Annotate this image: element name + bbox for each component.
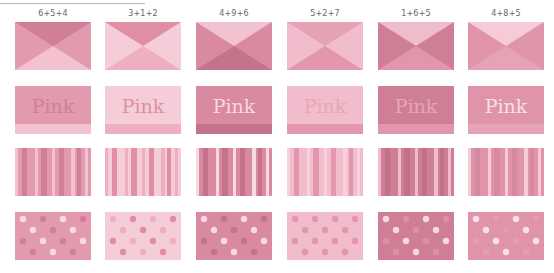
stripe-graphic bbox=[105, 148, 181, 196]
polka-dot-graphic bbox=[15, 212, 91, 260]
pink-swatch-word: Pink bbox=[378, 94, 454, 118]
top-divider-line bbox=[0, 3, 145, 4]
pink-text-swatch[interactable]: Pink bbox=[15, 86, 91, 134]
combination-label: 4+9+6 bbox=[196, 9, 272, 18]
stripe-swatch[interactable] bbox=[196, 148, 272, 196]
pink-swatch-word: Pink bbox=[15, 94, 91, 118]
combination-label: 4+8+5 bbox=[468, 9, 544, 18]
hourglass-swatch[interactable] bbox=[105, 22, 181, 70]
stripe-swatch[interactable] bbox=[468, 148, 544, 196]
pink-text-swatch[interactable]: Pink bbox=[196, 86, 272, 134]
combination-label: 5+2+7 bbox=[287, 9, 363, 18]
pink-text-swatch[interactable]: Pink bbox=[378, 86, 454, 134]
stripe-graphic bbox=[15, 148, 91, 196]
pink-swatch-word: Pink bbox=[105, 94, 181, 118]
stripe-graphic bbox=[468, 148, 544, 196]
polka-dot-swatch[interactable] bbox=[468, 212, 544, 260]
pink-swatch-band bbox=[15, 124, 91, 134]
stripe-swatch[interactable] bbox=[15, 148, 91, 196]
pink-swatch-word: Pink bbox=[287, 94, 363, 118]
combination-label: 3+1+2 bbox=[105, 9, 181, 18]
pink-text-swatch[interactable]: Pink bbox=[468, 86, 544, 134]
polka-dot-swatch[interactable] bbox=[378, 212, 454, 260]
hourglass-graphic bbox=[468, 22, 544, 70]
pink-swatch-band bbox=[468, 124, 544, 134]
hourglass-swatch[interactable] bbox=[287, 22, 363, 70]
pink-swatch-band bbox=[105, 124, 181, 134]
pink-swatch-word: Pink bbox=[468, 94, 544, 118]
polka-dot-swatch[interactable] bbox=[196, 212, 272, 260]
hourglass-swatch[interactable] bbox=[378, 22, 454, 70]
stripe-graphic bbox=[196, 148, 272, 196]
stripe-graphic bbox=[378, 148, 454, 196]
hourglass-graphic bbox=[287, 22, 363, 70]
stripe-swatch[interactable] bbox=[287, 148, 363, 196]
stripe-swatch[interactable] bbox=[378, 148, 454, 196]
polka-dot-graphic bbox=[468, 212, 544, 260]
hourglass-swatch[interactable] bbox=[196, 22, 272, 70]
pink-swatch-word: Pink bbox=[196, 94, 272, 118]
combination-label: 1+6+5 bbox=[378, 9, 454, 18]
pink-swatch-band bbox=[378, 124, 454, 134]
pink-swatch-band bbox=[287, 124, 363, 134]
polka-dot-graphic bbox=[196, 212, 272, 260]
pink-swatch-band bbox=[196, 124, 272, 134]
hourglass-graphic bbox=[105, 22, 181, 70]
hourglass-swatch[interactable] bbox=[15, 22, 91, 70]
hourglass-graphic bbox=[15, 22, 91, 70]
polka-dot-graphic bbox=[105, 212, 181, 260]
stripe-swatch[interactable] bbox=[105, 148, 181, 196]
polka-dot-graphic bbox=[287, 212, 363, 260]
pink-text-swatch[interactable]: Pink bbox=[105, 86, 181, 134]
polka-dot-swatch[interactable] bbox=[287, 212, 363, 260]
hourglass-graphic bbox=[196, 22, 272, 70]
hourglass-swatch[interactable] bbox=[468, 22, 544, 70]
pink-text-swatch[interactable]: Pink bbox=[287, 86, 363, 134]
hourglass-graphic bbox=[378, 22, 454, 70]
polka-dot-swatch[interactable] bbox=[15, 212, 91, 260]
polka-dot-graphic bbox=[378, 212, 454, 260]
combination-label: 6+5+4 bbox=[15, 9, 91, 18]
stripe-graphic bbox=[287, 148, 363, 196]
polka-dot-swatch[interactable] bbox=[105, 212, 181, 260]
